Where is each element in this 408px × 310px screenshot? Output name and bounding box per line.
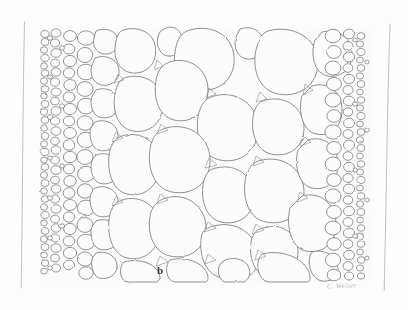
- illustration-canvas: b C. Weiser: [0, 0, 408, 310]
- cell-outlines: [40, 27, 369, 282]
- central-large-cells: [109, 27, 352, 282]
- right-margin-band-1: [343, 29, 355, 280]
- tissue-drawing: [0, 0, 408, 310]
- panel-label-b: b: [157, 264, 163, 276]
- artist-signature: C. Weiser: [327, 282, 357, 291]
